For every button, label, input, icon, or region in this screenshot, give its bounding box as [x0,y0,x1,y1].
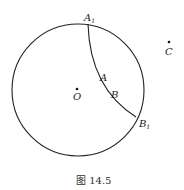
figure-caption: 图 14.5 [76,175,111,186]
label-b1: B1 [138,118,150,130]
label-c: C [165,46,173,57]
label-b: B [110,89,118,100]
label-a: A [99,72,107,83]
label-a1: A1 [83,12,95,24]
main-circle [12,24,144,156]
point-c [168,41,171,44]
point-o [76,88,79,91]
label-o: O [73,91,81,102]
figure-canvas: A1 B1 O C A B 图 14.5 [0,0,184,190]
arc-a1-b1 [88,24,136,117]
